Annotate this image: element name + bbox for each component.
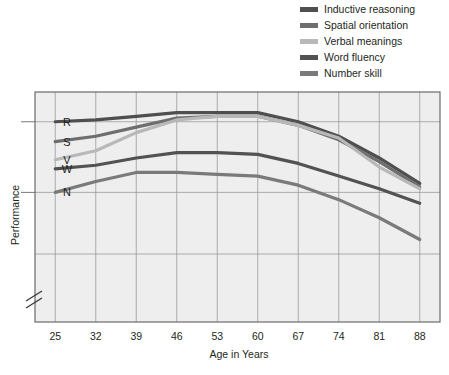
x-tick-25: 25	[49, 330, 61, 342]
x-tick-39: 39	[130, 330, 142, 342]
y-axis-title: Performance	[9, 185, 21, 245]
series-letter-S: S	[63, 136, 70, 148]
x-tick-67: 67	[292, 330, 304, 342]
x-axis-title: Age in Years	[210, 348, 269, 360]
chart-page: Inductive reasoning Spatial orientation …	[0, 0, 449, 375]
x-tick-60: 60	[252, 330, 264, 342]
x-tick-53: 53	[211, 330, 223, 342]
x-axis-tick-labels: 25323946536067748188	[49, 330, 425, 342]
series-letter-R: R	[63, 116, 71, 128]
series-letter-N: N	[63, 186, 71, 198]
x-tick-74: 74	[333, 330, 345, 342]
x-tick-32: 32	[90, 330, 102, 342]
x-tick-81: 81	[373, 330, 385, 342]
series-letter-W: W	[62, 163, 73, 175]
chart-svg: RSVWN 25323946536067748188 Age in Years …	[0, 0, 449, 375]
x-tick-46: 46	[171, 330, 183, 342]
x-tick-88: 88	[414, 330, 426, 342]
line-chart: RSVWN 25323946536067748188 Age in Years …	[0, 0, 449, 375]
